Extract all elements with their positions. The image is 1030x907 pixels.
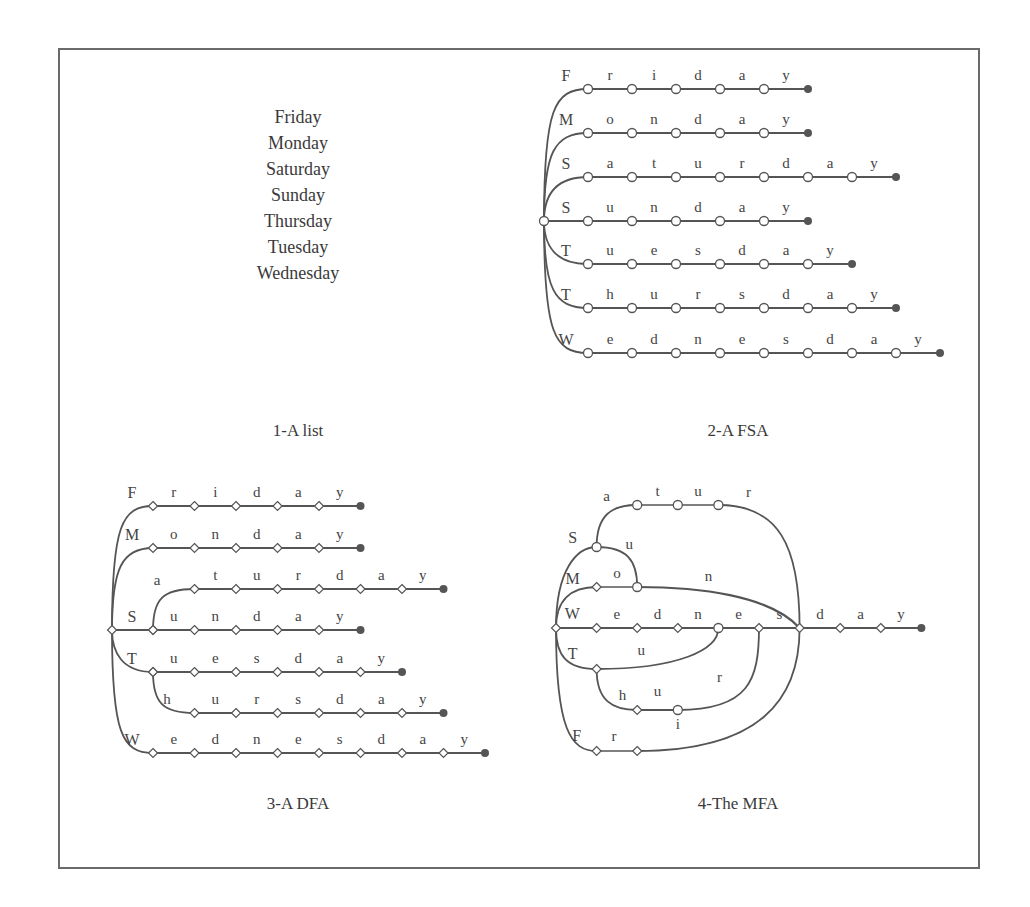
state-node xyxy=(315,626,324,635)
edge-label: y xyxy=(336,484,344,500)
state-node xyxy=(804,304,813,313)
edge-label: y xyxy=(870,155,878,171)
state-node xyxy=(633,583,642,592)
state-node xyxy=(628,260,637,269)
state-node xyxy=(398,709,407,718)
edge-label: n xyxy=(253,731,261,747)
state-node xyxy=(592,665,601,674)
edge-label: y xyxy=(782,199,790,215)
edge-label: y xyxy=(897,606,905,622)
edge-label: M xyxy=(559,111,573,128)
edge-label: n xyxy=(650,199,658,215)
state-node xyxy=(190,544,199,553)
state-node xyxy=(190,749,199,758)
state-node xyxy=(356,749,365,758)
final-state-node xyxy=(917,624,925,632)
edge-label: u xyxy=(606,242,614,258)
edge-label: t xyxy=(213,567,218,583)
edge-label: T xyxy=(561,242,571,259)
edge-label: d xyxy=(694,67,702,83)
edge-label: i xyxy=(213,484,217,500)
state-node xyxy=(592,747,601,756)
state-node xyxy=(108,626,117,635)
final-state-node xyxy=(892,173,900,181)
final-state-node xyxy=(481,749,489,757)
edge-label: i xyxy=(652,67,656,83)
edge-label: d xyxy=(654,606,662,622)
edge-label: r xyxy=(746,484,751,500)
state-node xyxy=(190,585,199,594)
final-state-node xyxy=(398,668,406,676)
state-node xyxy=(584,304,593,313)
edge-label: e xyxy=(170,731,177,747)
edge-label: W xyxy=(124,731,140,748)
state-node xyxy=(673,501,682,510)
edge-label: s xyxy=(295,691,301,707)
edge-label: n xyxy=(650,111,658,127)
state-node xyxy=(584,349,593,358)
edge-label: a xyxy=(827,155,834,171)
edge-curve xyxy=(718,505,799,628)
edge-label: y xyxy=(336,526,344,542)
state-node xyxy=(149,668,158,677)
edge-label: e xyxy=(739,331,746,347)
state-node xyxy=(760,173,769,182)
edge-label: d xyxy=(336,691,344,707)
state-node xyxy=(876,624,885,633)
state-node xyxy=(633,501,642,510)
edge-label: s xyxy=(739,286,745,302)
state-node xyxy=(848,173,857,182)
edge-label: d xyxy=(650,331,658,347)
state-node xyxy=(716,217,725,226)
state-node xyxy=(232,749,241,758)
edge-label: o xyxy=(606,111,614,127)
edge-label: d xyxy=(826,331,834,347)
edge-label: u xyxy=(637,642,645,658)
edge-label: o xyxy=(613,565,621,581)
state-node xyxy=(892,349,901,358)
fsa-diagram: FridayMondaySaturdaySundayTuesdayThursda… xyxy=(540,67,945,358)
edge-curve xyxy=(637,587,799,628)
state-node xyxy=(315,585,324,594)
edge-label: u xyxy=(694,483,702,499)
state-node xyxy=(190,668,199,677)
state-node xyxy=(628,217,637,226)
state-node xyxy=(149,626,158,635)
state-node xyxy=(672,173,681,182)
state-node xyxy=(592,583,601,592)
final-state-node xyxy=(357,626,365,634)
edge-label: e xyxy=(651,242,658,258)
state-node xyxy=(628,349,637,358)
state-node xyxy=(273,544,282,553)
state-node xyxy=(315,502,324,511)
state-node xyxy=(628,85,637,94)
edge-label: d xyxy=(782,155,790,171)
edge-label: e xyxy=(614,606,621,622)
state-node xyxy=(273,585,282,594)
state-node xyxy=(633,747,642,756)
state-node xyxy=(190,626,199,635)
edge-label: W xyxy=(565,605,581,622)
edge-label: r xyxy=(696,286,701,302)
state-node xyxy=(439,749,448,758)
edge-label: y xyxy=(419,691,427,707)
state-node xyxy=(716,129,725,138)
state-node xyxy=(672,304,681,313)
edge-label: n xyxy=(694,606,702,622)
edge-label: d xyxy=(816,606,824,622)
state-node xyxy=(273,749,282,758)
state-node xyxy=(540,217,549,226)
edge-label: y xyxy=(461,731,469,747)
state-node xyxy=(273,668,282,677)
state-node xyxy=(804,349,813,358)
edge-label: u xyxy=(694,155,702,171)
state-node xyxy=(315,749,324,758)
state-node xyxy=(149,544,158,553)
edge-label: T xyxy=(127,650,137,667)
state-node xyxy=(628,173,637,182)
mfa-diagram: WednesdaySaturuMonTuhurFri xyxy=(552,483,926,756)
edge-label: u xyxy=(625,536,633,552)
state-node xyxy=(232,585,241,594)
edge-label: d xyxy=(336,567,344,583)
edge-label: u xyxy=(170,608,178,624)
